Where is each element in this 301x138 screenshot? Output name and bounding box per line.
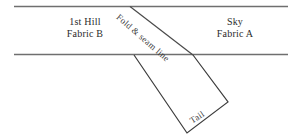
tail-shape-group [134, 55, 228, 133]
sewing-pattern-diagram: 1st Hill Fabric B Sky Fabric A Fold & se… [0, 0, 301, 138]
tail-outline [134, 55, 228, 133]
region-label-right-line2: Fabric A [192, 28, 278, 40]
region-label-right: Sky Fabric A [192, 16, 278, 40]
region-label-right-line1: Sky [192, 16, 278, 28]
region-label-left-line2: Fabric B [42, 28, 128, 40]
